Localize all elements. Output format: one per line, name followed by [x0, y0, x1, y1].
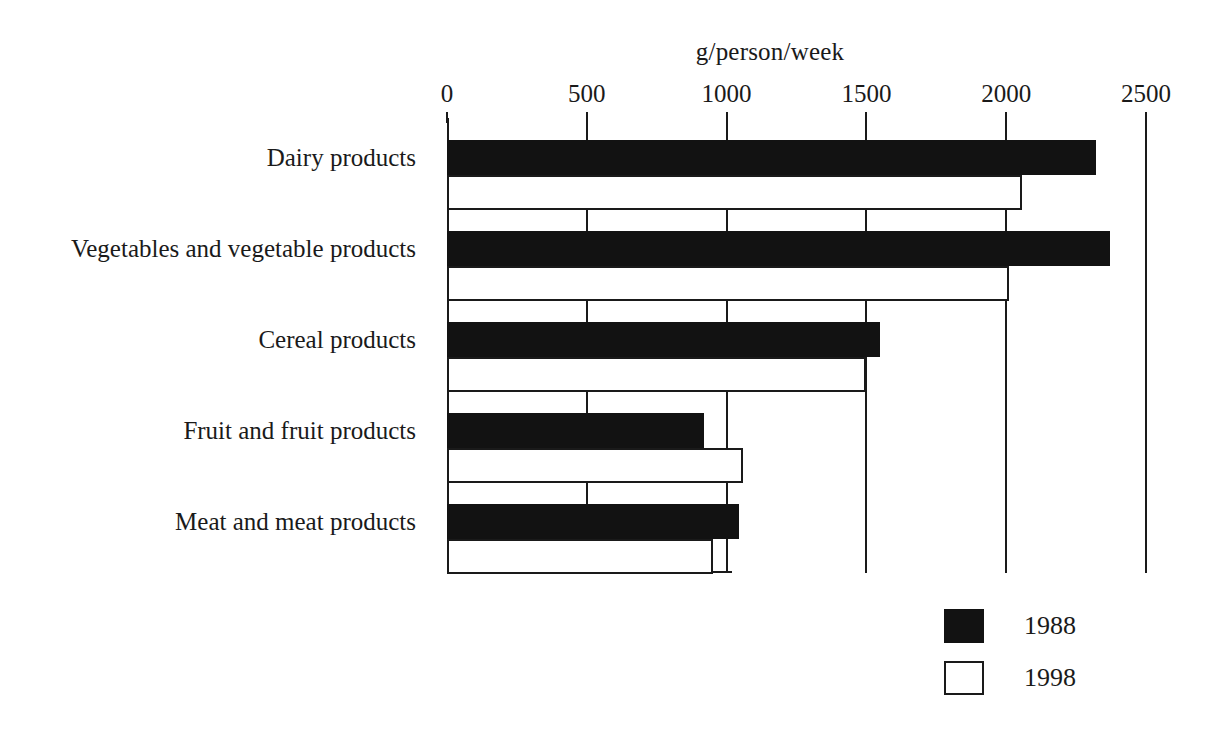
- x-tick-label: 1500: [841, 80, 891, 108]
- bar-1998: [447, 175, 1022, 210]
- x-tick-label: 2500: [1121, 80, 1171, 108]
- plot-area: [447, 118, 1146, 573]
- bar-1998: [447, 448, 743, 483]
- bar-1998: [447, 357, 866, 392]
- category-label: Cereal products: [258, 327, 416, 352]
- category-label: Dairy products: [267, 145, 416, 170]
- legend: 19881998: [944, 600, 1144, 704]
- x-axis-title: g/person/week: [620, 38, 920, 66]
- legend-item: 1998: [944, 652, 1144, 704]
- legend-swatch-1988: [944, 609, 984, 643]
- y-axis-category-labels: Dairy productsVegetables and vegetable p…: [0, 0, 430, 741]
- bar-1998: [447, 539, 713, 574]
- x-tick-label: 0: [441, 80, 454, 108]
- bar-chart: g/person/week 05001000150020002500 Dairy…: [0, 0, 1224, 741]
- bar-1988: [447, 504, 739, 539]
- bar-1988: [447, 231, 1110, 266]
- bar-1988: [447, 140, 1096, 175]
- x-tick-label: 1000: [702, 80, 752, 108]
- legend-label: 1988: [1024, 611, 1076, 641]
- bar-1988: [447, 322, 880, 357]
- x-tick-label: 2000: [981, 80, 1031, 108]
- category-label: Vegetables and vegetable products: [71, 236, 416, 261]
- category-label: Meat and meat products: [175, 509, 416, 534]
- bar-1988: [447, 413, 704, 448]
- x-gridline: [1145, 118, 1147, 573]
- bar-1998: [447, 266, 1009, 301]
- x-tick-label: 500: [568, 80, 606, 108]
- category-label: Fruit and fruit products: [183, 418, 416, 443]
- legend-item: 1988: [944, 600, 1144, 652]
- legend-label: 1998: [1024, 663, 1076, 693]
- legend-swatch-1998: [944, 661, 984, 695]
